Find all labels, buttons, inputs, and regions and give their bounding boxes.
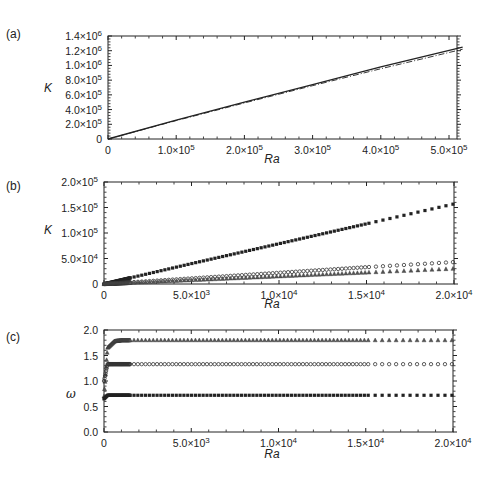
tick-label: 1.2×106 [65, 44, 102, 57]
series-squares [102, 394, 453, 401]
tick-label: 1.5×104 [347, 436, 384, 449]
xlabel-a: Ra [264, 152, 280, 166]
tick-label: 1.0×106 [65, 58, 102, 71]
tick-label: 5.0×103 [173, 288, 210, 301]
tick-label: 2.0×105 [65, 117, 102, 130]
tick-label: 2.0×104 [436, 288, 473, 301]
tick-label: 1.4×106 [65, 29, 102, 42]
tick-label: 8.0×105 [65, 73, 102, 86]
figure: (a) K Ra (b) K Ra (c) ω Ra 02.0×1054.0×1… [0, 0, 498, 479]
tick-label: 1.0×104 [260, 436, 297, 449]
panel-b-plot: 05.0×1041.0×1051.5×1052.0×10505.0×1031.0… [61, 175, 473, 301]
series-triangles [102, 267, 455, 286]
tick-label: 0 [105, 144, 111, 156]
panel-a-plot: 02.0×1054.0×1056.0×1058.0×1051.0×1061.2×… [65, 29, 468, 156]
series-line-dash-dot [108, 49, 463, 139]
ylabel-a: K [44, 81, 53, 95]
tick-label: 5.0×105 [431, 143, 468, 156]
panel-label-a: (a) [6, 27, 21, 41]
tick-label: 0 [96, 133, 102, 145]
tick-label: 0.0 [83, 426, 98, 438]
tick-label: 1.0 [83, 375, 98, 387]
plot-frame [108, 36, 457, 139]
tick-label: 1.0×104 [261, 288, 298, 301]
plot-frame [104, 330, 453, 432]
panel-label-b: (b) [6, 179, 21, 193]
tick-label: 4.0×105 [65, 103, 102, 116]
tick-label: 1.0×105 [158, 143, 195, 156]
tick-label: 3.0×105 [294, 143, 331, 156]
tick-label: 6.0×105 [65, 88, 102, 101]
tick-label: 4.0×105 [362, 143, 399, 156]
xlabel-c: Ra [264, 447, 280, 461]
tick-label: 2.0×104 [435, 436, 472, 449]
series-circles [102, 362, 453, 382]
tick-label: 0.5 [83, 401, 98, 413]
tick-label: 1.5×105 [61, 201, 98, 214]
tick-label: 0 [101, 437, 107, 449]
panel-label-c: (c) [6, 330, 20, 344]
ylabel-b: K [44, 223, 53, 237]
tick-label: 0 [101, 289, 107, 301]
tick-label: 1.0×105 [61, 226, 98, 239]
tick-label: 1.5 [83, 350, 98, 362]
tick-label: 1.5×104 [348, 288, 385, 301]
tick-label: 2.0×105 [226, 143, 263, 156]
ylabel-c: ω [66, 387, 76, 401]
tick-label: 5.0×104 [61, 252, 98, 265]
tick-label: 0 [92, 278, 98, 290]
series-triangles [102, 338, 454, 398]
tick-label: 5.0×103 [173, 436, 210, 449]
series-line-solid [108, 47, 463, 139]
panel-c-plot: 0.00.51.01.52.005.0×1031.0×1041.5×1042.0… [83, 324, 472, 449]
plot-frame [104, 182, 454, 284]
tick-label: 2.0×105 [61, 175, 98, 188]
tick-label: 2.0 [83, 324, 98, 336]
